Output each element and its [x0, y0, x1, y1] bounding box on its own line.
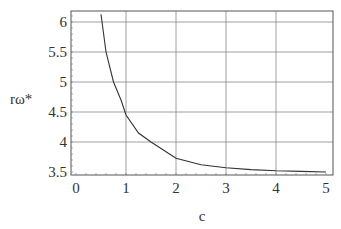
x-tick-label: 3 — [222, 180, 230, 196]
y-tick-label: 5.5 — [48, 44, 67, 60]
y-tick-label: 5 — [60, 74, 68, 90]
x-tick-label: 0 — [72, 180, 80, 196]
y-tick-label: 6 — [60, 14, 68, 30]
x-tick-label: 2 — [172, 180, 180, 196]
x-axis-label: c — [199, 208, 206, 224]
plot-frame — [71, 11, 333, 175]
y-axis-label: rω* — [10, 91, 32, 107]
y-tick-label: 3.5 — [48, 164, 67, 180]
y-tick-label: 4.5 — [48, 104, 67, 120]
y-tick-label: 4 — [60, 134, 68, 150]
x-tick-label: 1 — [122, 180, 130, 196]
x-tick-label: 5 — [322, 180, 330, 196]
x-tick-label: 4 — [272, 180, 280, 196]
data-line — [101, 14, 326, 172]
chart: 0123453.544.555.56crω* — [0, 0, 341, 229]
